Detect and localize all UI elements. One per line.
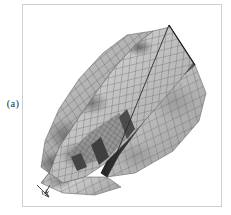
mesh-surface-plot [23, 5, 221, 206]
panel-label: (a) [4, 98, 22, 110]
surface-plot-canvas [23, 5, 221, 206]
figure-panel: (a) [0, 0, 231, 215]
plot-frame [22, 4, 222, 207]
